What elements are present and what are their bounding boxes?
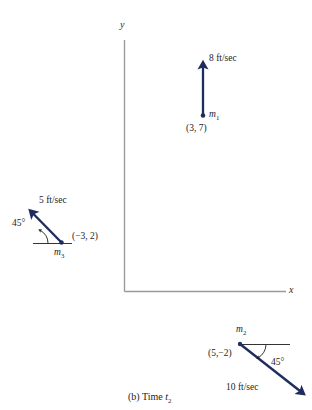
mass-label-m2-text: m	[236, 324, 243, 334]
vector-m3	[33, 214, 72, 245]
figure-panel-b: y x 8 ft/sec m1 (3, 7) 5 ft/sec 45° (−3,…	[0, 0, 312, 410]
x-axis-label: x	[289, 285, 293, 295]
axis-lines	[125, 40, 287, 292]
mass-label-m2-sub: 2	[243, 329, 246, 336]
angle-label-m3: 45°	[12, 219, 25, 229]
speed-label-m3: 5 ft/sec	[39, 196, 67, 206]
mass-label-m3: m3	[54, 248, 64, 260]
y-axis-label: y	[120, 20, 124, 30]
figure-caption-sub: 2	[168, 397, 171, 404]
figure-caption: (b) Time t2	[128, 392, 171, 405]
point-m1-dot	[201, 113, 206, 118]
point-m3-dot	[59, 240, 63, 244]
coordinate-label-m2: (5,−2)	[208, 349, 232, 359]
m2-angle-arc	[259, 345, 267, 358]
m3-angle-arc	[41, 231, 49, 244]
coordinate-label-m1: (3, 7)	[186, 124, 207, 134]
figure-caption-prefix: (b) Time	[128, 391, 165, 402]
mass-label-m3-sub: 3	[61, 252, 64, 259]
mass-label-m3-text: m	[54, 247, 61, 257]
mass-label-m1-text: m	[209, 109, 216, 119]
mass-label-m2: m2	[236, 325, 246, 337]
speed-label-m1: 8 ft/sec	[209, 54, 237, 64]
mass-label-m1-sub: 1	[216, 114, 219, 121]
point-m2-dot	[238, 342, 242, 346]
mass-label-m1: m1	[209, 110, 219, 122]
vector-m1	[201, 67, 206, 118]
angle-label-m2: 45°	[271, 358, 284, 368]
speed-label-m2: 10 ft/sec	[226, 383, 258, 393]
coordinate-label-m3: (−3, 2)	[72, 232, 98, 242]
